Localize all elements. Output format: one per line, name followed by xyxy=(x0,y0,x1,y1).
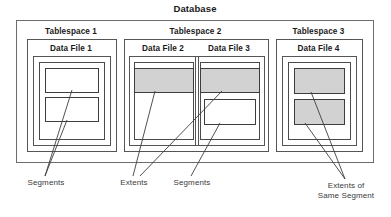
tablespace-3-label: Tablespace 3 xyxy=(276,27,361,36)
callout-extents-line1: Extents xyxy=(103,178,165,188)
callout-extents-same-segment: Extents of Same Segment xyxy=(308,181,384,201)
data-file-4-label: Data File 4 xyxy=(282,44,355,53)
callout-extents-same-line2: Same Segment xyxy=(308,191,384,201)
database-storage-diagram: Database Tablespace 1 Data File 1 Tables… xyxy=(0,0,391,217)
data-file-2-label: Data File 2 xyxy=(129,44,197,53)
callout-segments-left: Segments xyxy=(8,178,84,188)
data-file-4-block-1 xyxy=(294,68,345,94)
data-file-2-block-1 xyxy=(134,68,194,93)
tablespace-1-label: Tablespace 1 xyxy=(27,27,115,36)
data-file-4-block-2 xyxy=(294,99,345,125)
data-file-1-block-2 xyxy=(45,97,99,122)
data-file-3-block-2 xyxy=(204,99,256,125)
callout-segments-mid-line1: Segments xyxy=(161,178,223,188)
callout-segments-left-line1: Segments xyxy=(8,178,84,188)
data-file-1-block-1 xyxy=(45,68,99,93)
diagram-title: Database xyxy=(130,3,260,14)
callout-segments-mid: Segments xyxy=(161,178,223,188)
callout-extents: Extents xyxy=(103,178,165,188)
callout-extents-same-line1: Extents of xyxy=(308,181,384,191)
data-file-1-label: Data File 1 xyxy=(33,44,109,53)
data-file-3-block-1 xyxy=(200,68,260,93)
data-file-3-label: Data File 3 xyxy=(195,44,263,53)
tablespace-2-label: Tablespace 2 xyxy=(124,27,267,36)
